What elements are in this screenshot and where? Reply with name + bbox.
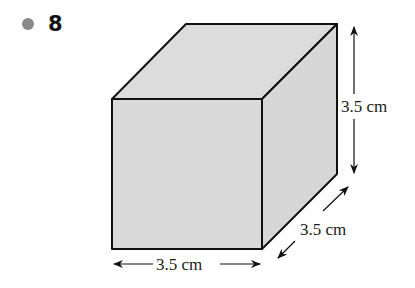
cube-front-face: [112, 99, 262, 249]
height-label: 3.5 cm: [341, 97, 387, 116]
width-label: 3.5 cm: [156, 255, 202, 274]
cube-diagram: 3.5 cm 3.5 cm 3.5 cm: [0, 0, 415, 288]
depth-label: 3.5 cm: [300, 220, 346, 239]
width-dimension: 3.5 cm: [114, 255, 260, 274]
height-dimension: 3.5 cm: [341, 27, 387, 173]
